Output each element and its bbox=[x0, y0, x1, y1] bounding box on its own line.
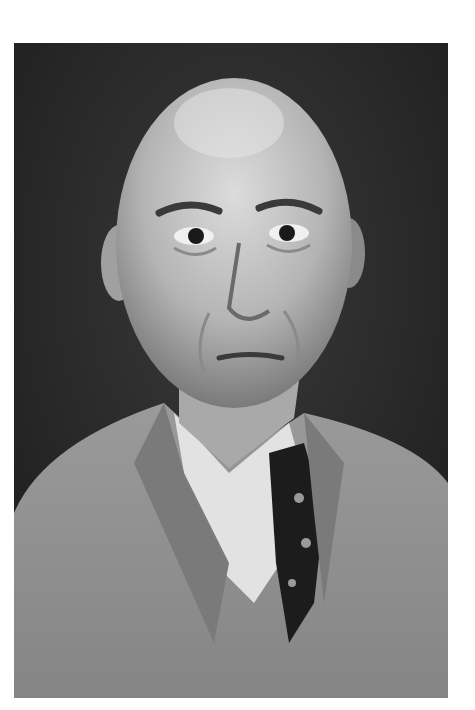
portrait-illustration bbox=[14, 43, 448, 698]
portrait-photo bbox=[14, 43, 448, 698]
